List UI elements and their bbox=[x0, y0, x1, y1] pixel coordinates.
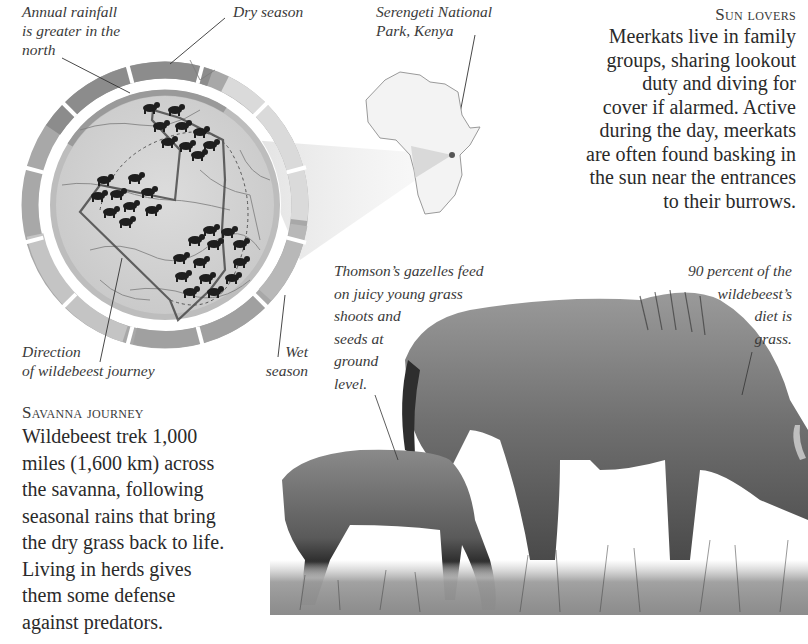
label-wet-season: Wet season bbox=[262, 342, 308, 380]
label-dry-season: Dry season bbox=[233, 2, 303, 21]
savanna-journey-section: Savanna journey Wildebeest trek 1,000 mi… bbox=[22, 403, 224, 635]
label-direction: Direction of wildebeest journey bbox=[22, 342, 155, 380]
wildebeest-caption: 90 percent of the wildebeest’s diet is g… bbox=[688, 260, 792, 350]
sun-lovers-heading: Sun lovers bbox=[516, 5, 796, 25]
sun-lovers-body: Meerkats live in family groups, sharing … bbox=[516, 25, 796, 213]
gazelle-caption: Thomson’s gazelles feed on juicy young g… bbox=[334, 260, 484, 395]
sun-lovers-section: Sun lovers Meerkats live in family group… bbox=[516, 5, 796, 213]
season-ring bbox=[24, 64, 306, 346]
savanna-journey-body: Wildebeest trek 1,000 miles (1,600 km) a… bbox=[22, 423, 224, 635]
label-serengeti-park: Serengeti National Park, Kenya bbox=[376, 2, 492, 40]
savanna-journey-heading: Savanna journey bbox=[22, 403, 224, 423]
label-annual-rainfall: Annual rainfall is greater in the north bbox=[22, 2, 120, 59]
